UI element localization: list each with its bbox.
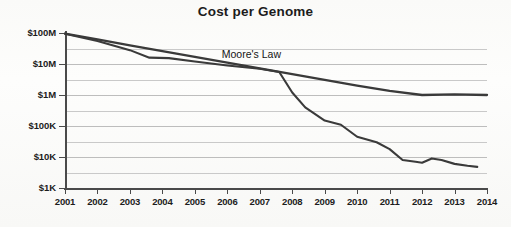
series-layer — [0, 0, 511, 227]
moores-law-line — [65, 34, 487, 95]
moores-law-annotation: Moore's Law — [222, 48, 281, 60]
cost-per-genome-chart: Cost per Genome $100M$10M$1M$100K$10K$1K… — [0, 0, 511, 227]
